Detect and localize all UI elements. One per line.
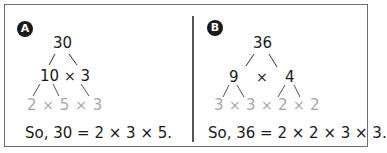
tree-b-prime-row: 3 × 3 × 2 × 2 — [214, 97, 320, 113]
conclusion-b: So, 36 = 2 × 2 × 3 × 3. — [208, 125, 387, 141]
times-sign: × — [261, 97, 273, 113]
prime-factor: 3 — [214, 96, 224, 114]
tree-b-factor-9: 9 — [229, 69, 239, 85]
prime-factor: 2 — [278, 96, 288, 114]
times-sign: × — [293, 97, 305, 113]
times-sign: × — [256, 69, 268, 85]
times-sign: × — [229, 97, 241, 113]
prime-factor: 2 — [310, 96, 320, 114]
tree-b-factor-4: 4 — [285, 69, 295, 85]
prime-factor: 3 — [246, 96, 256, 114]
